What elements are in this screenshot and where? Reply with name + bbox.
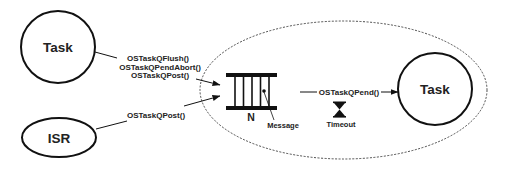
- diagram-svg: Task ISR Task OSTaskQFlush() OSTaskQPend…: [0, 0, 507, 171]
- message-label: Message: [267, 121, 299, 130]
- receiver-task-node: Task: [398, 53, 472, 125]
- isr-connector-line: [96, 121, 127, 129]
- hourglass-icon: [333, 102, 346, 118]
- isr-to-queue-arrow: [184, 96, 220, 106]
- sender-task-node: Task: [21, 11, 95, 83]
- call-label-task-qpost: OSTaskQPost(): [131, 71, 189, 80]
- sender-task-label: Task: [43, 40, 73, 55]
- isr-label: ISR: [48, 131, 71, 146]
- call-label-qflush: OSTaskQFlush(): [127, 54, 189, 63]
- sender-task-connector-line: [95, 52, 117, 58]
- receiver-task-label: Task: [420, 82, 450, 97]
- queue-size-label: N: [247, 111, 255, 123]
- isr-node: ISR: [22, 118, 96, 157]
- queue-top-bar: [226, 73, 277, 77]
- timeout-label: Timeout: [326, 120, 356, 129]
- task-message-queue-diagram: Task ISR Task OSTaskQFlush() OSTaskQPend…: [0, 0, 507, 171]
- call-label-qpend: OSTaskQPend(): [319, 88, 380, 97]
- call-label-isr-qpost: OSTaskQPost(): [127, 111, 185, 120]
- task-to-queue-arrow: [196, 79, 220, 85]
- message-queue-icon: [226, 73, 277, 110]
